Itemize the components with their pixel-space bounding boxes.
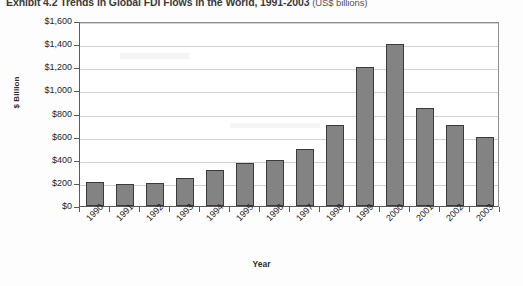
x-axis-tick-mark	[199, 207, 200, 212]
bar-slot	[350, 23, 380, 206]
x-axis-tick-mark	[229, 207, 230, 212]
y-axis-tick-label: $200	[52, 178, 72, 188]
chart-title-main: Exhibit 4.2 Trends in Global FDI Flows i…	[6, 0, 309, 8]
chart-title-clipped: Exhibit 4.2 Trends in Global FDI Flows i…	[0, 0, 523, 9]
y-axis-tick-label: $1,200	[44, 62, 72, 72]
y-axis-tick-label: $1,000	[44, 85, 72, 95]
x-axis-tick-mark	[439, 207, 440, 212]
bar-slot	[80, 23, 110, 206]
bar-slot	[470, 23, 500, 206]
x-axis-tick-mark	[349, 207, 350, 212]
fdi-flows-bar-chart: Exhibit 4.2 Trends in Global FDI Flows i…	[0, 0, 523, 286]
bar-slot	[410, 23, 440, 206]
y-axis-tick-label: $1,400	[44, 39, 72, 49]
x-axis-tick-mark	[139, 207, 140, 212]
x-axis-tick-mark	[109, 207, 110, 212]
x-axis-tick-mark	[469, 207, 470, 212]
bar-slot	[260, 23, 290, 206]
bar-slot	[170, 23, 200, 206]
bar[interactable]	[176, 178, 194, 206]
x-axis-tick-mark	[169, 207, 170, 212]
bar[interactable]	[326, 125, 344, 206]
bar[interactable]	[236, 163, 254, 206]
y-axis-tick-label: $400	[52, 155, 72, 165]
y-axis-tick-label: $1,600	[44, 16, 72, 26]
bar-group	[80, 23, 498, 206]
x-axis-tick-mark	[409, 207, 410, 212]
chart-title: Exhibit 4.2 Trends in Global FDI Flows i…	[6, 0, 367, 8]
bar-slot	[140, 23, 170, 206]
chart-title-units: (US$ billions)	[312, 0, 367, 8]
bar[interactable]	[446, 125, 464, 206]
bar-slot	[440, 23, 470, 206]
x-axis-tick-mark	[379, 207, 380, 212]
x-axis-tick-mark	[79, 207, 80, 212]
plot-area	[79, 22, 499, 207]
x-axis-tick-mark	[319, 207, 320, 212]
y-axis-tick-label: $0	[62, 201, 72, 211]
bar[interactable]	[476, 137, 494, 206]
x-axis-tick-mark	[289, 207, 290, 212]
x-axis-title: Year	[0, 259, 523, 269]
bar[interactable]	[116, 184, 134, 206]
bar[interactable]	[356, 67, 374, 206]
bar-slot	[320, 23, 350, 206]
bar[interactable]	[146, 183, 164, 206]
bar[interactable]	[386, 44, 404, 206]
bar[interactable]	[266, 160, 284, 206]
x-axis-tick-mark	[259, 207, 260, 212]
x-axis-tick-mark	[499, 207, 500, 212]
bar-slot	[110, 23, 140, 206]
bar[interactable]	[86, 182, 104, 206]
bar[interactable]	[416, 108, 434, 206]
y-axis-title: $ Billion	[12, 53, 21, 133]
bar-slot	[290, 23, 320, 206]
bar-slot	[380, 23, 410, 206]
bar[interactable]	[206, 170, 224, 206]
bar-slot	[200, 23, 230, 206]
bar[interactable]	[296, 149, 314, 206]
y-axis-tick-label: $600	[52, 132, 72, 142]
y-axis-tick-label: $800	[52, 109, 72, 119]
bar-slot	[230, 23, 260, 206]
